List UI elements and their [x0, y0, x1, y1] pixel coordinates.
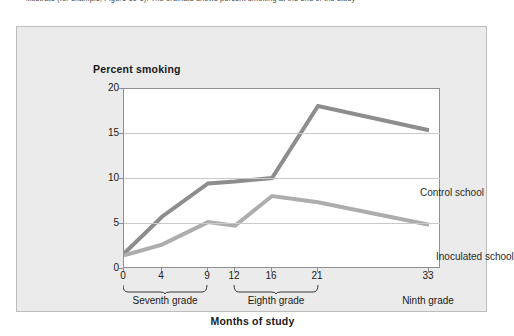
grade-label-seventh: Seventh grade: [132, 295, 197, 306]
x-tick-label-9: 9: [204, 270, 210, 281]
gridline-15: [124, 133, 440, 134]
bracket-eighth-grade: [234, 285, 318, 294]
y-tick-label-10: 10: [89, 172, 119, 183]
series-label-inoculated-school: Inoculated school: [436, 251, 514, 262]
line-control-school: [124, 106, 429, 254]
y-tick-label-15: 15: [89, 127, 119, 138]
x-axis-title: Months of study: [17, 315, 488, 327]
y-axis-title: Percent smoking: [93, 63, 181, 75]
bracket-seventh-grade: [123, 285, 207, 294]
x-tick-label-21: 21: [311, 270, 322, 281]
y-tick-label-5: 5: [89, 217, 119, 228]
plot-border-top: [124, 88, 440, 89]
x-tick-label-4: 4: [158, 270, 164, 281]
page-caption: illustrate (for example, Figure 10-1). T…: [26, 0, 496, 3]
x-axis-tick-labels: 0 4 9 12 16 21 33: [123, 270, 443, 284]
x-tick-label-0: 0: [120, 270, 126, 281]
y-axis-tick-labels: 20 15 10 5 0: [87, 88, 119, 268]
chart-panel: Percent smoking 20 15 10 5 0 Control sch…: [16, 26, 487, 312]
x-tick-label-33: 33: [422, 270, 433, 281]
gridline-5: [124, 223, 440, 224]
grade-label-eighth: Eighth grade: [248, 295, 305, 306]
grade-group-brackets: [123, 285, 443, 295]
plot-area: Control school Inoculated school: [123, 88, 440, 268]
y-tick-label-20: 20: [89, 82, 119, 93]
gridline-10: [124, 178, 440, 179]
y-tick-label-0: 0: [89, 262, 119, 273]
grade-label-ninth: Ninth grade: [402, 295, 454, 306]
line-inoculated-school: [124, 196, 429, 255]
x-tick-label-12: 12: [228, 270, 239, 281]
series-label-control-school: Control school: [420, 187, 484, 198]
grade-group-labels: Seventh grade Eighth grade Ninth grade: [123, 295, 463, 309]
x-tick-label-16: 16: [265, 270, 276, 281]
